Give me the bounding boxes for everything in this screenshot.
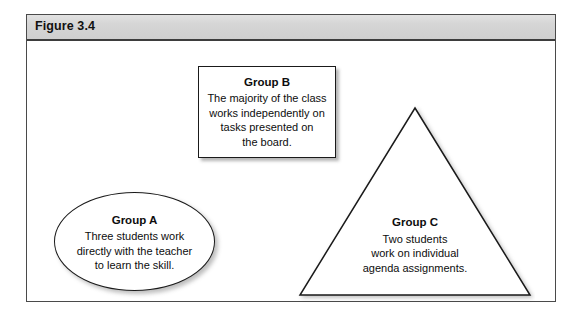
group-b-title: Group B [207,75,326,90]
group-c-body: Two students work on individual agenda a… [335,232,495,276]
figure-frame: Figure 3.4 Group B The majority of the c… [26,14,556,302]
group-a-body: Three students work directly with the te… [77,229,193,273]
group-c-text: Group C Two students work on individual … [335,215,495,275]
group-a-text: Group A Three students work directly wit… [69,213,201,273]
diagram-canvas: Group B The majority of the class works … [27,41,555,301]
group-c-title: Group C [335,215,495,230]
figure-header-bar: Figure 3.4 [27,15,555,41]
group-c-triangle: Group C Two students work on individual … [295,103,535,303]
group-a-title: Group A [77,213,193,228]
group-a-ellipse: Group A Three students work directly wit… [54,192,215,291]
figure-title: Figure 3.4 [35,19,95,33]
